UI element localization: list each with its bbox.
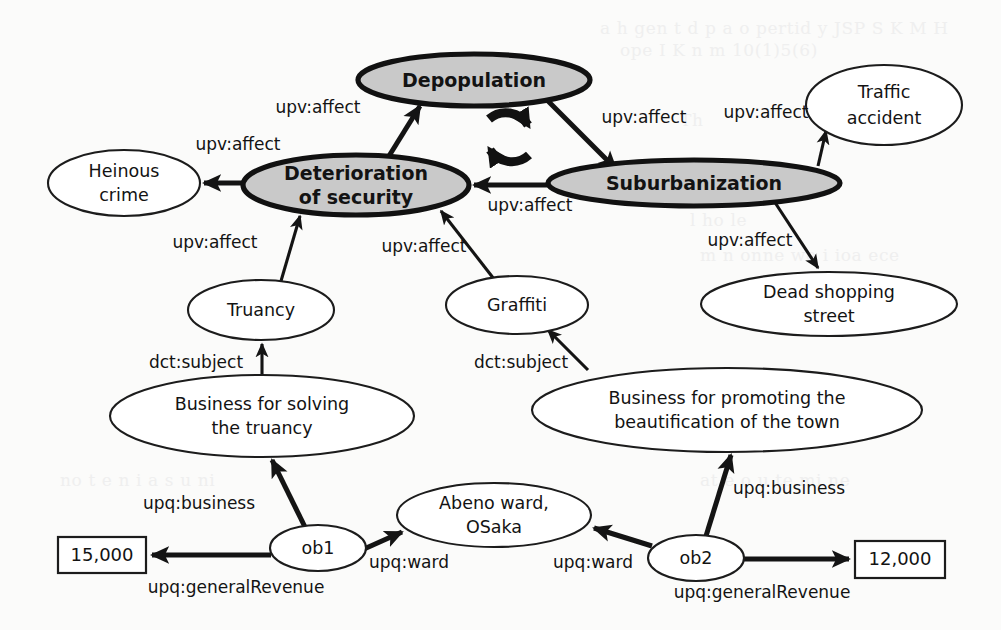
node-business-for-solving-truancy[interactable]: Business for solving the truancy xyxy=(110,375,414,457)
edge-label-suburbanization-to-dead-shopping-street: upv:affect xyxy=(707,230,792,250)
edge-label-ob2-to-abeno-ward: upq:ward xyxy=(553,552,633,572)
node-revenue-15000[interactable]: 15,000 xyxy=(58,537,146,573)
node-business-for-promoting-beautification[interactable]: Business for promoting the beautificatio… xyxy=(532,368,922,452)
edge-label-business-beautify-to-graffiti: dct:subject xyxy=(474,352,568,372)
edge-label-truancy-to-deterioration: upv:affect xyxy=(172,232,257,252)
node-abeno-ward-osaka[interactable]: Abeno ward, OSaka xyxy=(397,483,591,547)
node-heinous-crime-line2: crime xyxy=(99,185,149,205)
node-suburbanization-label: Suburbanization xyxy=(606,172,782,194)
node-truancy-label: Truancy xyxy=(226,300,295,320)
node-revenue-12000-label: 12,000 xyxy=(869,548,932,569)
node-traffic-accident-line2: accident xyxy=(847,108,922,128)
edge-label-business-truancy-to-truancy: dct:subject xyxy=(149,352,243,372)
node-business-truancy-line1: Business for solving xyxy=(175,394,349,414)
edge-label-deterioration-to-depopulation: upv:affect xyxy=(275,97,360,117)
edge-deterioration-to-depopulation xyxy=(389,106,420,156)
node-business-beautify-line2: beautification of the town xyxy=(614,412,840,432)
node-heinous-crime[interactable]: Heinous crime xyxy=(48,150,200,216)
node-ob1-label: ob1 xyxy=(302,538,335,558)
node-depopulation-label: Depopulation xyxy=(402,69,546,91)
node-abeno-ward-line1: Abeno ward, xyxy=(439,493,549,513)
node-depopulation[interactable]: Depopulation xyxy=(358,54,590,106)
edge-label-deterioration-to-heinous-crime: upv:affect xyxy=(195,134,280,154)
edge-label-suburbanization-to-traffic-accident: upv:affect xyxy=(723,102,808,122)
node-dead-shopping-line1: Dead shopping xyxy=(763,282,895,302)
node-dead-shopping-street[interactable]: Dead shopping street xyxy=(701,272,957,336)
edge-label-ob2-to-business-beautify: upq:business xyxy=(733,478,845,498)
node-revenue-15000-label: 15,000 xyxy=(71,544,134,565)
node-traffic-accident[interactable]: Traffic accident xyxy=(806,65,962,145)
node-ob1[interactable]: ob1 xyxy=(270,525,366,571)
node-business-truancy-line2: the truancy xyxy=(211,418,312,438)
edge-ob2-to-abeno-ward xyxy=(594,528,652,546)
node-graffiti-label: Graffiti xyxy=(487,295,547,315)
node-ob2[interactable]: ob2 xyxy=(648,535,744,581)
node-dead-shopping-line2: street xyxy=(803,306,854,326)
edge-ob1-to-abeno-ward xyxy=(364,532,402,549)
node-deterioration-line1: Deterioration xyxy=(284,162,428,184)
edge-label-ob1-to-business-truancy: upq:business xyxy=(143,493,255,513)
node-revenue-12000[interactable]: 12,000 xyxy=(855,541,945,578)
diagram-canvas: a h gen t d p a o pertid y JSP S K M H o… xyxy=(0,0,1001,630)
cycle-icon xyxy=(489,113,529,162)
node-graffiti[interactable]: Graffiti xyxy=(446,276,588,334)
edge-ob2-to-business-beautify xyxy=(706,455,731,536)
node-ob2-label: ob2 xyxy=(680,548,713,568)
edge-label-ob1-to-abeno-ward: upq:ward xyxy=(369,552,449,572)
edge-truancy-to-deterioration xyxy=(281,216,300,281)
node-heinous-crime-line1: Heinous xyxy=(89,161,160,181)
node-deterioration-of-security[interactable]: Deterioration of security xyxy=(243,155,469,215)
edge-suburbanization-to-traffic-accident xyxy=(818,131,826,166)
diagram-svg: Depopulation Deterioration of security S… xyxy=(0,0,1001,630)
node-truancy[interactable]: Truancy xyxy=(188,280,334,340)
edge-label-ob2-to-revenue-12000: upq:generalRevenue xyxy=(674,582,851,602)
edge-label-depopulation-to-suburbanization: upv:affect xyxy=(601,107,686,127)
edge-label-suburbanization-to-deterioration: upv:affect xyxy=(487,195,572,215)
edge-label-graffiti-to-deterioration: upv:affect xyxy=(381,236,466,256)
edge-ob1-to-business-truancy xyxy=(272,460,305,527)
node-traffic-accident-line1: Traffic xyxy=(857,82,911,102)
node-suburbanization[interactable]: Suburbanization xyxy=(548,160,840,206)
node-deterioration-line2: of security xyxy=(299,186,414,208)
edge-label-ob1-to-revenue-15000: upq:generalRevenue xyxy=(148,577,325,597)
node-business-beautify-line1: Business for promoting the xyxy=(609,388,846,408)
node-abeno-ward-line2: OSaka xyxy=(466,517,522,537)
